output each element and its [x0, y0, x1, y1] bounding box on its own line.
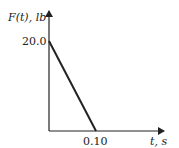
- force-line: [49, 41, 96, 131]
- force-time-chart: F(t), lb 20.0 0.10 t, s: [0, 0, 179, 148]
- y-axis-label: F(t), lb: [7, 11, 46, 24]
- x-axis-label: t, s: [150, 135, 167, 148]
- x-tick-label: 0.10: [83, 135, 108, 148]
- chart-canvas: F(t), lb 20.0 0.10 t, s: [0, 0, 179, 148]
- y-tick-label: 20.0: [22, 35, 47, 48]
